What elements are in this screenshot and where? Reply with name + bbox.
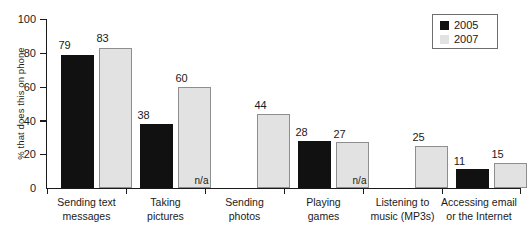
bar-label-2005-listening-to-music-na: n/a [343, 176, 376, 186]
bar-2005-accessing-email[interactable] [456, 169, 489, 188]
bar-label-2007-playing-games: 27 [323, 129, 356, 140]
bar-label-2005-sending-photos-na: n/a [185, 176, 218, 186]
x-tick-mark-2 [205, 189, 206, 194]
bar-2005-playing-games[interactable] [298, 141, 331, 188]
y-tick-label-80: 80 [8, 48, 36, 59]
bar-2007-taking-pictures[interactable] [178, 87, 211, 188]
y-tick-label-0: 0 [8, 183, 36, 194]
x-tick-mark-3 [284, 189, 285, 194]
legend-swatch-2007-icon [440, 35, 449, 44]
legend-label-2005: 2005 [454, 20, 478, 31]
legend-item-2005[interactable]: 2005 [440, 19, 497, 32]
bar-label-2005-playing-games: 28 [285, 127, 318, 138]
y-tick-label-100: 100 [8, 14, 36, 25]
bar-2007-sending-photos[interactable] [257, 114, 290, 188]
x-category-label-accessing-email: Accessing email or the Internet [432, 196, 526, 223]
bar-2007-accessing-email[interactable] [494, 163, 527, 188]
bar-label-2005-taking-pictures: 38 [127, 110, 160, 121]
x-tick-mark-4 [363, 189, 364, 194]
bar-label-2007-sending-text-messages: 83 [86, 33, 119, 44]
bar-label-2007-sending-photos: 44 [244, 100, 277, 111]
bar-label-2005-sending-text-messages: 79 [48, 40, 81, 51]
x-tick-mark-6 [520, 189, 521, 194]
bar-label-2005-accessing-email: 11 [443, 156, 476, 167]
bar-2005-sending-text-messages[interactable] [61, 55, 94, 189]
bar-2005-taking-pictures[interactable] [140, 124, 173, 188]
y-tick-label-60: 60 [8, 82, 36, 93]
y-tick-label-20: 20 [8, 149, 36, 160]
legend-item-2007[interactable]: 2007 [440, 33, 497, 46]
y-axis-label: % that does this on phone [14, 19, 28, 188]
bar-label-2007-accessing-email: 15 [481, 149, 514, 160]
x-tick-mark-5 [442, 189, 443, 194]
x-category-label-line2: or the Internet [432, 210, 526, 224]
legend-label-2007: 2007 [454, 34, 478, 45]
bar-label-2007-listening-to-music: 25 [402, 132, 435, 143]
x-tick-mark-1 [126, 189, 127, 194]
x-category-label-line1: Accessing email [432, 196, 526, 210]
bar-label-2007-taking-pictures: 60 [165, 73, 198, 84]
x-tick-mark-0 [47, 189, 48, 194]
legend-swatch-2005-icon [440, 21, 449, 30]
legend: 2005 2007 [432, 14, 498, 49]
y-tick-label-40: 40 [8, 116, 36, 127]
